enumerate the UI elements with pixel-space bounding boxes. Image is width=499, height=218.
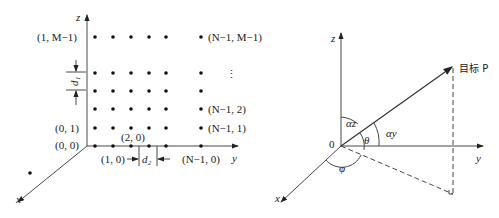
label-2-0: (2, 0) <box>121 131 145 144</box>
target-label: 目标 P <box>459 63 488 74</box>
y-axis-label: y <box>231 152 237 164</box>
array-layout-panel <box>18 15 238 202</box>
z-axis-label: z <box>75 11 81 23</box>
z-axis-label-right: z <box>330 32 336 44</box>
projection-ground <box>341 146 453 194</box>
label-n1-0: (N−1, 0) <box>182 153 220 166</box>
phi-label: φ <box>339 162 345 174</box>
label-1-0: (1, 0) <box>101 153 125 166</box>
label-n1-1: (N−1, 1) <box>208 122 246 135</box>
x-axis-right <box>281 146 341 202</box>
vdots: ⋮ <box>226 68 237 80</box>
alpha-z-label: αz <box>346 117 357 129</box>
label-n1-m1: (N−1, M−1) <box>208 31 262 44</box>
d2-label: d₂ <box>142 153 152 165</box>
label-0-0: (0, 0) <box>55 139 79 152</box>
direction-angle-panel <box>281 33 483 202</box>
d1-label: d₁ <box>68 77 80 87</box>
x-axis-label: x <box>15 193 21 205</box>
arc-alpha-y <box>374 123 379 146</box>
x-axis <box>18 146 87 202</box>
origin-label: 0 <box>329 138 335 150</box>
y-axis-label-right: y <box>475 152 481 164</box>
x-axis-label-right: x <box>274 192 280 204</box>
label-0-1: (0, 1) <box>55 122 79 135</box>
alpha-y-label: αy <box>386 127 397 139</box>
label-n1-2: (N−1, 2) <box>208 103 246 116</box>
label-1-m1: (1, M−1) <box>37 31 77 44</box>
array-geometry-figure: z y x (1, M−1) (N−1, M−1) ⋮ (N−1, 2) (0,… <box>0 0 499 218</box>
left-labels: z y x (1, M−1) (N−1, M−1) ⋮ (N−1, 2) (0,… <box>15 11 262 205</box>
theta-label: θ <box>364 134 370 146</box>
